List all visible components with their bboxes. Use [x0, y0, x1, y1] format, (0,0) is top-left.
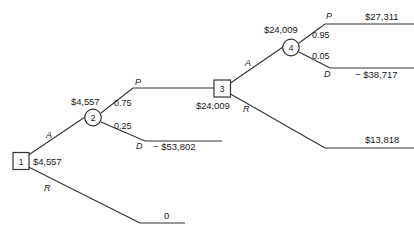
edge-n3-reject	[231, 94, 326, 148]
outcome-value-13818: $13,818	[365, 135, 399, 145]
outcome-value-zero: 0	[164, 211, 169, 221]
tree-edges-svg: 1 2 3 4	[0, 0, 414, 239]
branch-label-n4-defect: D	[324, 70, 331, 79]
outcome-value-27311: $27,311	[365, 12, 399, 22]
probability-n2-pass: 0.75	[114, 99, 132, 108]
branch-label-n4-pass: P	[326, 12, 332, 21]
node-3-label: 3	[220, 84, 225, 94]
node-4-value: $24,009	[264, 25, 298, 35]
node-2-value: $4,557	[71, 97, 99, 107]
node-1-label: 1	[19, 157, 24, 167]
node-3-value: $24,009	[196, 101, 230, 111]
node-1-value: $4,557	[33, 157, 61, 167]
outcome-value-38717: − $38,717	[355, 70, 398, 80]
probability-n4-defect: 0.05	[312, 52, 330, 61]
edge-n3-accept	[231, 47, 284, 83]
branch-label-n3-reject: R	[243, 105, 250, 114]
probability-n4-pass: 0.95	[312, 31, 330, 40]
branch-label-n3-accept: A	[245, 59, 251, 68]
node-2-label: 2	[91, 113, 96, 123]
edge-n1-reject	[29, 167, 141, 223]
decision-tree-diagram: 1 2 3 4 $4,557 $4,557 $24,009 $24,009 A …	[0, 0, 414, 239]
branch-label-n2-defect: D	[136, 142, 143, 151]
branch-label-n1-reject: R	[44, 184, 51, 193]
outcome-value-53802: − $53,802	[153, 142, 196, 152]
branch-label-n1-accept: A	[46, 131, 52, 140]
node-4-label: 4	[289, 43, 294, 53]
edge-n1-accept	[29, 117, 86, 155]
probability-n2-defect: 0.25	[114, 122, 132, 131]
branch-label-n2-pass: P	[135, 78, 141, 87]
